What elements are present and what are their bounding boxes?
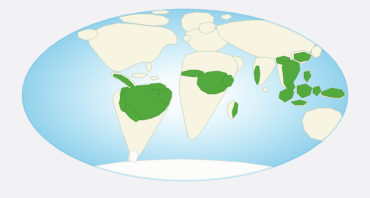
land-hispaniola [150, 76, 159, 80]
land-sri-lanka [263, 87, 268, 92]
world-map-svg [0, 0, 370, 198]
world-map-figure [0, 0, 370, 198]
